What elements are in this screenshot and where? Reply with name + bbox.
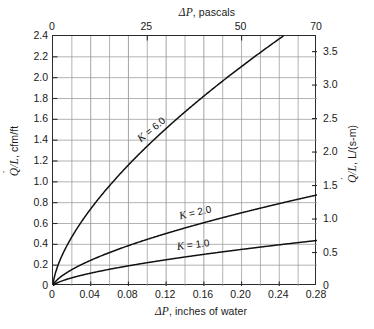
top-tick-label-3: 70	[310, 20, 322, 32]
right-tick-label-0: 0	[323, 279, 329, 291]
right-axis-symbol: Q/L	[346, 165, 358, 183]
left-tick-label-5: 1.0	[22, 175, 48, 187]
right-tick-label-1: 0.5	[323, 246, 338, 258]
bottom-axis-symbol: ΔP	[155, 305, 169, 317]
bottom-tick-label-1: 0.04	[79, 288, 99, 300]
right-tick-label-2: 1.0	[323, 212, 338, 224]
chart-figure: ΔP, pascals ΔP, inches of water Q/L, cfm…	[0, 0, 374, 329]
bottom-tick-label-0: 0	[49, 288, 55, 300]
left-tick-label-11: 2.2	[22, 50, 48, 62]
right-axis-title: Q/L, L/(s-m)	[346, 114, 358, 194]
bottom-tick-label-6: 0.24	[268, 288, 288, 300]
bottom-axis-unit: , inches of water	[169, 305, 247, 317]
top-axis-symbol: ΔP	[179, 6, 193, 18]
bottom-tick-label-4: 0.16	[193, 288, 213, 300]
top-tick-label-1: 25	[140, 20, 152, 32]
top-axis-title: ΔP, pascals	[0, 6, 374, 18]
left-tick-label-1: 0.2	[22, 258, 48, 270]
left-tick-label-9: 1.8	[22, 92, 48, 104]
right-tick-label-7: 3.5	[323, 45, 338, 57]
right-tick-label-3: 1.5	[323, 179, 338, 191]
top-tick-label-0: 0	[49, 20, 55, 32]
left-tick-label-10: 2.0	[22, 71, 48, 83]
left-tick-label-0: 0	[22, 279, 48, 291]
bottom-axis-title: ΔP, inches of water	[0, 305, 374, 317]
left-tick-label-8: 1.6	[22, 112, 48, 124]
top-axis-unit: , pascals	[193, 6, 235, 18]
left-axis-symbol: Q/L	[8, 158, 20, 176]
left-axis-title: Q/L, cfm/ft	[8, 111, 20, 191]
right-tick-label-4: 2.0	[323, 145, 338, 157]
right-axis-unit: , L/(s-m)	[346, 125, 358, 165]
left-tick-label-3: 0.6	[22, 217, 48, 229]
right-tick-label-6: 3.0	[323, 78, 338, 90]
top-tick-label-2: 50	[235, 20, 247, 32]
left-axis-unit: , cfm/ft	[8, 126, 20, 158]
bottom-tick-label-2: 0.08	[117, 288, 137, 300]
left-tick-label-12: 2.4	[22, 29, 48, 41]
left-tick-label-2: 0.4	[22, 237, 48, 249]
right-tick-label-5: 2.5	[323, 112, 338, 124]
left-tick-label-6: 1.2	[22, 154, 48, 166]
left-tick-label-4: 0.8	[22, 196, 48, 208]
bottom-tick-label-5: 0.20	[230, 288, 250, 300]
bottom-tick-label-3: 0.12	[155, 288, 175, 300]
left-tick-label-7: 1.4	[22, 133, 48, 145]
